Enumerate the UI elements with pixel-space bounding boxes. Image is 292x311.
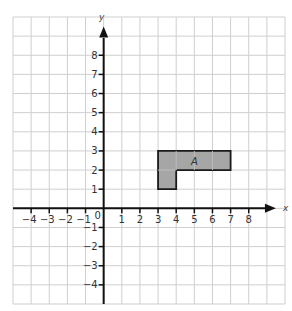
x-tick-label: 2 [137, 214, 143, 225]
y-tick-label: 7 [91, 69, 97, 80]
x-tick-label: 6 [209, 214, 215, 225]
y-axis-arrow-icon [99, 27, 108, 38]
x-tick-label: 4 [173, 214, 179, 225]
y-tick-label: 3 [91, 145, 97, 156]
coordinate-grid-figure: A x y 0 −4−3−2−11234567887654321−1−2−3−4 [0, 0, 292, 311]
y-tick-label: −2 [83, 241, 98, 252]
x-tick-label: 7 [227, 214, 233, 225]
y-tick-label: −4 [83, 279, 98, 290]
x-tick-label: −3 [40, 214, 55, 225]
y-tick-label: 5 [91, 107, 97, 118]
x-tick-label: −2 [58, 214, 73, 225]
y-axis-label: y [98, 12, 105, 22]
x-axis-label: x [282, 203, 289, 213]
y-tick-label: −3 [83, 260, 98, 271]
y-tick-label: −1 [83, 222, 98, 233]
origin-label: 0 [94, 210, 100, 221]
y-tick-label: 4 [91, 126, 97, 137]
y-tick-label: 6 [91, 88, 97, 99]
x-tick-label: 5 [191, 214, 197, 225]
shape-a-label: A [190, 156, 198, 167]
coordinate-plane: A x y 0 −4−3−2−11234567887654321−1−2−3−4 [0, 0, 292, 311]
y-tick-label: 8 [91, 50, 97, 61]
y-tick-label: 1 [91, 184, 97, 195]
x-axis-arrow-icon [265, 204, 276, 213]
y-tick-label: 2 [91, 165, 97, 176]
x-tick-label: 1 [119, 214, 125, 225]
x-tick-label: −4 [22, 214, 37, 225]
grid-lines [13, 17, 285, 304]
x-tick-label: 8 [246, 214, 252, 225]
x-tick-label: 3 [155, 214, 161, 225]
